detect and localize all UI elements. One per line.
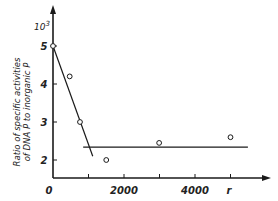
y-axis-label-line-1: Ratio of specific activities xyxy=(12,58,22,167)
y-tick-label: 2 xyxy=(41,155,48,166)
data-point-circle-icon xyxy=(51,44,56,49)
data-point-circle-icon xyxy=(78,120,83,125)
y-axis-arrow-icon xyxy=(50,5,56,14)
y-axis-multiplier: 103 xyxy=(34,20,50,32)
x-tick-label: 4000 xyxy=(181,185,209,196)
fit-lines xyxy=(53,46,248,156)
y-tick-label: 4 xyxy=(41,79,48,90)
data-point-circle-icon xyxy=(67,74,72,79)
x-tick-label: 2000 xyxy=(110,185,138,196)
y-tick-label: 5 xyxy=(41,41,48,52)
data-point-circle-icon xyxy=(104,158,109,163)
y-tick-label: 3 xyxy=(41,117,48,128)
x-axis-arrow-icon xyxy=(262,175,271,181)
data-point-circle-icon xyxy=(228,135,233,140)
x-tick-label: 0 xyxy=(46,185,53,196)
axes xyxy=(50,5,271,181)
data-point-circle-icon xyxy=(157,141,162,146)
y-axis-label-line-2: of DNA P to inorganic P xyxy=(22,58,32,167)
data-points xyxy=(51,44,233,163)
fit-line-initial-decline xyxy=(53,46,93,156)
x-axis-label: r xyxy=(227,185,232,196)
